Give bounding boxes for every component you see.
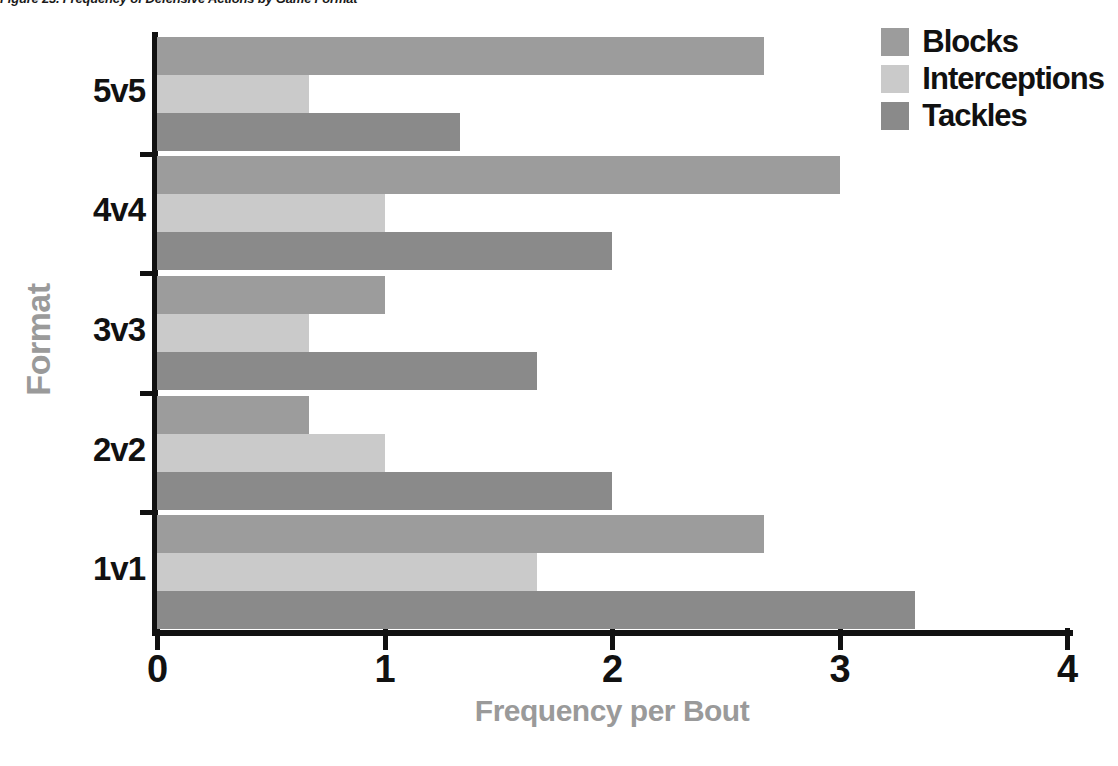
bar-blocks-4v4 [157,156,840,194]
bar-tackles-2v2 [157,472,612,510]
bar-interceptions-2v2 [157,434,385,472]
bar-tackles-1v1 [157,591,915,629]
bar-tackles-4v4 [157,232,612,270]
bar-interceptions-3v3 [157,314,309,352]
bar-blocks-2v2 [157,396,309,434]
y-axis-title: Format [19,210,58,470]
bar-interceptions-4v4 [157,194,385,232]
legend-item-blocks[interactable]: Blocks [881,26,1104,57]
bar-blocks-3v3 [157,276,385,314]
x-tick-label: 1 [355,648,415,691]
x-tick-label: 0 [127,648,187,691]
x-tick-label: 4 [1037,648,1097,691]
x-tick-label: 2 [582,648,642,691]
legend-swatch-icon [881,102,909,130]
x-axis-title: Frequency per Bout [157,694,1067,728]
legend-swatch-icon [881,65,909,93]
legend-label: Tackles [922,100,1026,131]
figure-caption: Figure 23. Frequency of Defensive Action… [0,0,1118,6]
legend-swatch-icon [881,28,909,56]
bar-interceptions-5v5 [157,75,309,113]
bar-tackles-5v5 [157,113,460,151]
legend-label: Interceptions [922,63,1104,94]
bar-blocks-1v1 [157,515,764,553]
bar-interceptions-1v1 [157,553,537,591]
legend-label: Blocks [922,26,1018,57]
chart-legend: BlocksInterceptionsTackles [881,26,1104,131]
y-tick-label: 5v5 [35,72,145,110]
legend-item-interceptions[interactable]: Interceptions [881,63,1104,94]
bar-blocks-5v5 [157,37,764,75]
legend-item-tackles[interactable]: Tackles [881,100,1104,131]
x-tick-label: 3 [810,648,870,691]
y-tick-label: 1v1 [35,550,145,588]
bar-tackles-3v3 [157,352,537,390]
